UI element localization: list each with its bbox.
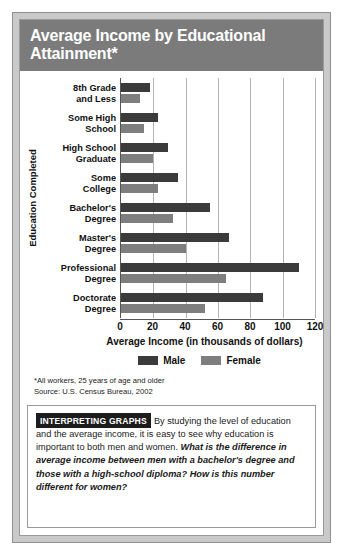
interpreting-graphs-text: INTERPRETING GRAPHSBy studying the level… [36, 413, 307, 494]
source-line: Source: U.S. Census Bureau, 2002 [34, 386, 315, 397]
y-axis-title-text: Education Completed [27, 149, 38, 247]
chart-area: Education Completed 8th Gradeand LessSom… [20, 72, 323, 397]
bar-male-6 [121, 263, 299, 272]
category-label-5: Master'sDegree [40, 229, 120, 259]
bar-female-6 [121, 274, 226, 283]
category-label-4: Bachelor'sDegree [40, 199, 120, 229]
bar-female-1 [121, 124, 144, 133]
category-labels: 8th Gradeand LessSome HighSchoolHigh Sch… [40, 78, 120, 319]
figure-outer-frame: Average Income by Educational Attainment… [12, 12, 331, 543]
footnote-asterisk: *All workers, 25 years of age and older [34, 375, 315, 386]
footnotes: *All workers, 25 years of age and older … [24, 366, 315, 397]
chart-title: Average Income by Educational Attainment… [20, 20, 323, 72]
x-tick-40: 40 [179, 321, 190, 332]
interpreting-graphs-box: INTERPRETING GRAPHSBy studying the level… [27, 405, 316, 528]
bar-group-4 [121, 198, 315, 228]
bar-group-7 [121, 288, 315, 318]
category-label-2: High SchoolGraduate [40, 139, 120, 169]
bar-female-3 [121, 184, 158, 193]
bar-female-0 [121, 94, 140, 103]
category-label-3: SomeCollege [40, 169, 120, 199]
bar-group-3 [121, 168, 315, 198]
x-tick-120: 120 [307, 321, 324, 332]
x-tick-80: 80 [244, 321, 255, 332]
legend-swatch-male [138, 356, 158, 365]
x-axis-title: Average Income (in thousands of dollars) [24, 336, 315, 347]
bar-male-4 [121, 203, 210, 212]
bar-male-2 [121, 143, 168, 152]
legend-swatch-female [201, 356, 221, 365]
category-label-1: Some HighSchool [40, 109, 120, 139]
bar-group-2 [121, 138, 315, 168]
plot-region [120, 78, 315, 318]
category-label-0: 8th Gradeand Less [40, 79, 120, 109]
interpreting-graphs-tag: INTERPRETING GRAPHS [36, 413, 151, 428]
legend-label-female: Female [226, 355, 260, 366]
bar-male-3 [121, 173, 178, 182]
legend-item-female: Female [201, 355, 260, 366]
plot-wrapper: Education Completed 8th Gradeand LessSom… [24, 78, 315, 319]
bar-male-1 [121, 113, 158, 122]
x-tick-100: 100 [274, 321, 291, 332]
category-label-6: ProfessionalDegree [40, 259, 120, 289]
bar-female-2 [121, 154, 153, 163]
chart-legend: Male Female [24, 355, 315, 366]
x-tick-60: 60 [212, 321, 223, 332]
bar-male-0 [121, 83, 150, 92]
bar-female-5 [121, 244, 186, 253]
x-axis-ticks: 020406080100120 [120, 320, 315, 335]
legend-label-male: Male [163, 355, 185, 366]
bar-group-5 [121, 228, 315, 258]
x-tick-20: 20 [147, 321, 158, 332]
bar-male-7 [121, 293, 263, 302]
figure-page: Average Income by Educational Attainment… [0, 0, 343, 555]
bar-group-1 [121, 108, 315, 138]
x-tick-0: 0 [117, 321, 123, 332]
legend-item-male: Male [138, 355, 185, 366]
y-axis-title: Education Completed [24, 78, 40, 319]
gridline-120 [315, 78, 316, 318]
category-label-7: DoctorateDegree [40, 289, 120, 319]
bar-group-0 [121, 78, 315, 108]
bar-female-7 [121, 304, 205, 313]
figure-inner-frame: Average Income by Educational Attainment… [19, 19, 324, 536]
bar-male-5 [121, 233, 229, 242]
bar-group-6 [121, 258, 315, 288]
bar-female-4 [121, 214, 173, 223]
